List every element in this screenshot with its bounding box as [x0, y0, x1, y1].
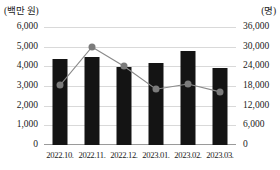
category-label: 2022.10. — [46, 150, 73, 160]
right-axis-tick-label: 30,000 — [243, 42, 269, 52]
line-marker — [121, 63, 128, 70]
category-label: 2023.01. — [142, 150, 169, 160]
dual-axis-combo-chart: (백만 원) (명) 01,0002,0003,0004,0005,0006,0… — [0, 0, 280, 170]
line-marker — [89, 43, 96, 50]
left-axis-tick-label: 5,000 — [17, 42, 38, 52]
line-marker — [153, 86, 160, 93]
left-axis-tick-label: 3,000 — [17, 81, 38, 91]
line-marker — [185, 81, 192, 88]
left-axis-tick-label: 1,000 — [17, 121, 38, 131]
category-label: 2022.12. — [110, 150, 137, 160]
left-axis-tick-label: 2,000 — [17, 101, 38, 111]
category-label: 2023.03. — [206, 150, 233, 160]
left-axis-tick-label: 4,000 — [17, 62, 38, 72]
line-marker — [57, 82, 64, 89]
right-axis-tick-label: 24,000 — [243, 62, 269, 72]
line-marker — [217, 88, 224, 95]
right-axis-unit-label: (명) — [261, 3, 276, 17]
category-label: 2023.02. — [174, 150, 201, 160]
left-axis-tick-label: 6,000 — [17, 22, 38, 32]
line-series — [44, 27, 236, 145]
right-axis-tick-label: 36,000 — [243, 22, 269, 32]
right-axis-tick-label: 18,000 — [243, 81, 269, 91]
category-label: 2022.11. — [79, 150, 106, 160]
right-axis-tick-label: 12,000 — [243, 101, 269, 111]
right-axis-tick-label: 0 — [243, 140, 248, 150]
left-axis-tick-label: 0 — [33, 140, 38, 150]
right-axis-tick-label: 6,000 — [243, 121, 264, 131]
left-axis-unit-label: (백만 원) — [4, 3, 39, 17]
plot-area: 01,0002,0003,0004,0005,0006,000 06,00012… — [44, 27, 236, 145]
